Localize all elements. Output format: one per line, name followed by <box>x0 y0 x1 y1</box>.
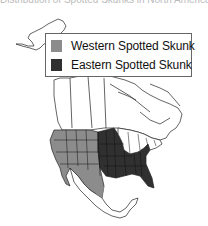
legend-item-eastern: Eastern Spotted Skunk <box>51 58 192 72</box>
eastern-swatch <box>51 59 62 71</box>
western-swatch <box>51 40 62 52</box>
legend-label-western: Western Spotted Skunk <box>71 39 195 53</box>
legend-item-western: Western Spotted Skunk <box>51 39 195 53</box>
legend-label-eastern: Eastern Spotted Skunk <box>71 58 192 72</box>
map-legend: Western Spotted Skunk Eastern Spotted Sk… <box>45 33 192 77</box>
